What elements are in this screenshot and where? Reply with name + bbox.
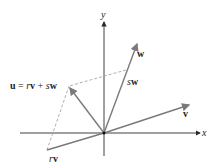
y-axis-label: y bbox=[100, 9, 106, 20]
vector-w bbox=[104, 44, 137, 133]
vector-diagram: y x w v sw rv u = rv + sw bbox=[0, 0, 217, 168]
vector-v bbox=[104, 105, 189, 133]
x-axis-label: x bbox=[201, 127, 207, 138]
u-equation-label: u = rv + sw bbox=[10, 80, 58, 91]
sw-label: sw bbox=[127, 76, 139, 87]
dashed-sw-to-u bbox=[69, 70, 126, 86]
vector-rv bbox=[47, 133, 104, 150]
vector-u bbox=[70, 88, 104, 133]
w-label: w bbox=[137, 48, 145, 59]
rv-label: rv bbox=[49, 153, 58, 164]
v-label: v bbox=[183, 108, 188, 119]
origin-point bbox=[103, 132, 106, 135]
dashed-rv-to-u bbox=[47, 86, 69, 150]
